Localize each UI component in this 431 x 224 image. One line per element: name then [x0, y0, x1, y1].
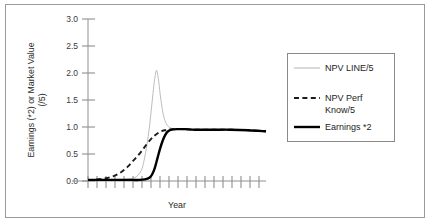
y-axis-title: Earnings (*2) or Market Value (/5): [26, 42, 47, 157]
legend-label-npv-line: NPV LINE/5: [325, 63, 374, 73]
y-tick-label-4: 2.0: [66, 68, 78, 78]
legend-label-npv-perf-know-line2: Know/5: [325, 105, 355, 115]
y-tick-label-2: 1.0: [66, 122, 78, 132]
chart-figure: 0.0 0.5 1.0 1.5 2.0 2.5 3.0 Earnings (*2…: [0, 0, 431, 224]
legend-label-earnings: Earnings *2: [325, 122, 372, 132]
legend-label-npv-perf-know-line1: NPV Perf: [325, 93, 363, 103]
x-axis-ticks: [88, 176, 259, 188]
y-tick-label-6: 3.0: [66, 14, 78, 24]
x-axis-title: Year: [168, 200, 186, 210]
series-earnings: [88, 129, 266, 180]
series-npv-perf-know: [88, 129, 266, 180]
y-axis-title-line1: Earnings (*2) or Market Value: [26, 42, 36, 157]
y-tick-label-1: 0.5: [66, 149, 78, 159]
y-tick-label-3: 1.5: [66, 95, 78, 105]
series-npv-line: [88, 70, 266, 180]
y-axis-title-line2: (/5): [37, 93, 47, 106]
chart-plot-area: 0.0 0.5 1.0 1.5 2.0 2.5 3.0 Earnings (*2…: [0, 0, 431, 224]
y-tick-label-5: 2.5: [66, 41, 78, 51]
